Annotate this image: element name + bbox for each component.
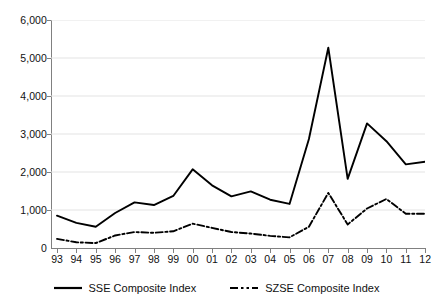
x-tick-label-93: 93	[51, 254, 63, 265]
x-tick-label-02: 02	[226, 254, 238, 265]
y-tick-label-4000: 4,000	[3, 91, 47, 101]
legend-label-szse: SZSE Composite Index	[265, 282, 379, 294]
y-tick-label-3000: 3,000	[3, 129, 47, 139]
x-tick-label-01: 01	[206, 254, 218, 265]
y-tick-label-6000: 6,000	[3, 15, 47, 25]
x-tick-label-97: 97	[129, 254, 141, 265]
x-tick-label-09: 09	[361, 254, 373, 265]
y-tick-label-2000: 2,000	[3, 167, 47, 177]
x-axis: 9394959697989900010203040506070809101112	[51, 249, 426, 269]
x-tick-label-98: 98	[148, 254, 160, 265]
x-tick-label-06: 06	[303, 254, 315, 265]
legend-label-sse: SSE Composite Index	[89, 282, 197, 294]
x-tick-label-10: 10	[381, 254, 393, 265]
legend-item-szse: SZSE Composite Index	[230, 282, 379, 294]
x-tick-label-95: 95	[90, 254, 102, 265]
series-line-szse	[57, 193, 425, 243]
legend-item-sse: SSE Composite Index	[54, 282, 197, 294]
dash-dot-line-swatch-icon	[230, 283, 258, 293]
x-tick-label-00: 00	[187, 254, 199, 265]
x-tick-label-04: 04	[264, 254, 276, 265]
x-tick-label-94: 94	[71, 254, 83, 265]
x-tick-label-07: 07	[322, 254, 334, 265]
gridlines	[51, 20, 425, 210]
x-tick-label-96: 96	[109, 254, 121, 265]
y-tick-label-1000: 1,000	[3, 205, 47, 215]
x-tick-label-12: 12	[419, 254, 431, 265]
x-tick-label-11: 11	[400, 254, 411, 265]
x-tick-label-08: 08	[342, 254, 354, 265]
x-tick-label-99: 99	[167, 254, 179, 265]
y-tick-label-0: 0	[3, 243, 47, 253]
series-line-sse	[57, 48, 425, 227]
plot-area	[51, 20, 425, 248]
y-tick-label-5000: 5,000	[3, 53, 47, 63]
x-tick-label-05: 05	[284, 254, 296, 265]
series-canvas	[51, 20, 425, 248]
chart-legend: SSE Composite Index SZSE Composite Index	[0, 276, 433, 300]
x-tick-label-03: 03	[245, 254, 257, 265]
line-chart: 6,000 5,000 4,000 3,000 2,000 1,000 0	[0, 0, 433, 305]
solid-line-swatch-icon	[54, 283, 82, 293]
y-axis: 6,000 5,000 4,000 3,000 2,000 1,000 0	[0, 0, 47, 305]
